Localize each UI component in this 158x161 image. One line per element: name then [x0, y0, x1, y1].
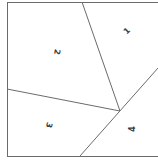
partition-diagram: 1 2 3 4: [0, 0, 158, 161]
region-label-1: 1: [122, 26, 133, 37]
divider-region-1-2: [82, 2, 120, 111]
divider-region-4: [80, 68, 158, 156]
region-label-4: 4: [128, 126, 137, 132]
svg-text:2: 2: [52, 48, 62, 55]
divider-region-2-3: [7, 89, 120, 111]
svg-text:3: 3: [44, 121, 54, 129]
svg-text:4: 4: [128, 126, 137, 132]
region-label-3: 3: [44, 121, 54, 129]
svg-text:1: 1: [122, 26, 133, 37]
region-label-2: 2: [52, 48, 62, 55]
